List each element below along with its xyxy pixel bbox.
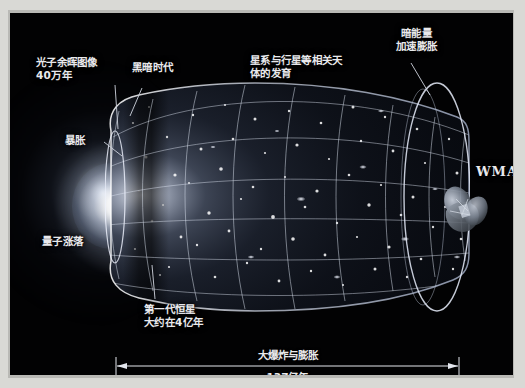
label-galaxies-planets: 星系与行星等相关天 体的发育 [250, 54, 343, 80]
cosmic-diagram-stage: 光子余晖图像 40万年 暴胀 量子涨落 黑暗时代 星系与行星等相关天 体的发育 … [10, 13, 513, 375]
label-photon-afterglow: 光子余晖图像 40万年 [36, 56, 98, 82]
figure-root: 光子余晖图像 40万年 暴胀 量子涨落 黑暗时代 星系与行星等相关天 体的发育 … [0, 0, 525, 388]
image-plate: 光子余晖图像 40万年 暴胀 量子涨落 黑暗时代 星系与行星等相关天 体的发育 … [10, 13, 513, 375]
timeline-dimension: 大爆炸与膨胀 137亿年 [115, 349, 460, 375]
label-dark-ages: 黑暗时代 [132, 61, 173, 74]
dimension-bottom-label: 137亿年 [115, 369, 460, 375]
label-wmap: WMAP [476, 165, 513, 178]
label-inflation: 暴胀 [65, 134, 86, 147]
dark-ages-band [123, 71, 169, 319]
wmap-satellite-icon [438, 181, 490, 239]
label-dark-energy: 暗能量 加速膨胀 [396, 27, 437, 53]
label-first-stars: 第一代恒星 大约在4亿年 [144, 303, 203, 329]
expanding-universe-cone [105, 71, 470, 319]
label-quantum-fluctuations: 量子涨落 [42, 235, 83, 248]
